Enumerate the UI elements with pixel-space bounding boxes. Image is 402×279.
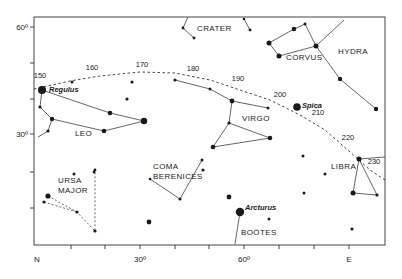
- star-icon: [304, 23, 307, 26]
- star-name-label: Arcturus: [244, 203, 276, 212]
- star-icon: [314, 44, 319, 49]
- constellation-dashed-line: [44, 202, 77, 212]
- y-axis-label: 30º: [16, 130, 28, 139]
- star-icon: [268, 218, 271, 221]
- constellation-line: [213, 101, 270, 147]
- ecliptic-longitude-label: 200: [274, 90, 287, 99]
- star-icon: [94, 169, 97, 172]
- star-icon: [236, 208, 244, 216]
- constellation-label: CORVUS: [286, 53, 322, 62]
- x-axis-label: N: [34, 255, 40, 264]
- star-icon: [45, 193, 50, 198]
- star-icon: [38, 86, 46, 94]
- constellation-label: HYDRA: [338, 47, 368, 56]
- ecliptic-longitude-label: 220: [342, 133, 355, 142]
- star-icon: [243, 18, 246, 21]
- constellation-line: [38, 119, 52, 137]
- star-name-label: Regulus: [49, 85, 79, 94]
- star-icon: [350, 227, 353, 230]
- ecliptic-longitude-label: 180: [187, 64, 200, 73]
- constellation-label: BERENICES: [153, 172, 203, 181]
- star-icon: [201, 159, 204, 162]
- star-icon: [93, 229, 96, 232]
- constellation-label: VIRGO: [242, 114, 270, 123]
- constellation-label: LEO: [75, 129, 92, 138]
- star-icon: [102, 129, 107, 134]
- star-icon: [193, 37, 196, 40]
- star-icon: [42, 200, 45, 203]
- constellation-line: [235, 212, 240, 244]
- constellation-line: [40, 90, 144, 131]
- constellation-label: MAJOR: [58, 186, 88, 195]
- ecliptic-longitude-label: 150: [34, 71, 47, 80]
- star-icon: [227, 121, 230, 124]
- star-icon: [209, 88, 212, 91]
- y-axis-label: 60º: [16, 23, 28, 32]
- star-icon: [357, 157, 362, 162]
- star-icon: [249, 29, 252, 32]
- star-icon: [351, 191, 356, 196]
- star-icon: [178, 197, 181, 200]
- star-icon: [230, 99, 235, 104]
- constellation-label: LIBRA: [331, 162, 356, 171]
- x-axis-label: 30º: [134, 255, 146, 264]
- star-icon: [303, 192, 306, 195]
- star-icon: [147, 220, 152, 225]
- star-icon: [50, 117, 54, 121]
- star-icon: [46, 129, 49, 132]
- star-icon: [130, 80, 133, 83]
- star-icon: [268, 136, 273, 141]
- star-icon: [211, 145, 216, 150]
- ecliptic-longitude-label: 160: [86, 63, 99, 72]
- star-icon: [374, 107, 378, 111]
- star-icon: [182, 27, 185, 30]
- star-name-labels: RegulusSpicaArcturus: [49, 85, 322, 212]
- constellation-line: [244, 19, 250, 30]
- star-icon: [108, 111, 113, 116]
- star-icon: [375, 193, 378, 196]
- star-icon: [227, 195, 232, 200]
- star-icon: [38, 105, 41, 108]
- star-icon: [292, 27, 297, 32]
- constellation-label: COMA: [153, 162, 179, 171]
- star-icon: [302, 155, 305, 158]
- star-icon: [324, 173, 327, 176]
- star-icon: [277, 54, 282, 59]
- x-axis-label: 60º: [238, 255, 250, 264]
- star-icon: [267, 41, 272, 46]
- ecliptic-longitude-label: 190: [232, 74, 245, 83]
- star-chart: 60º30ºN30º60ºE 1501601701801902002102202…: [0, 0, 402, 279]
- star-icon: [75, 210, 78, 213]
- ecliptic-longitude-label: 230: [368, 157, 381, 166]
- star-icon: [293, 103, 301, 111]
- star-icon: [125, 97, 128, 100]
- ecliptic-longitude-label: 170: [136, 60, 149, 69]
- ecliptic-markers: 150160170180190200210220230: [34, 60, 381, 166]
- star-name-label: Spica: [302, 101, 322, 110]
- star-icon: [149, 178, 152, 181]
- star-icon: [173, 78, 176, 81]
- star-icon: [141, 118, 147, 124]
- constellation-line: [316, 20, 344, 46]
- constellation-label: BOÖTES: [241, 228, 277, 237]
- constellation-label: CRATER: [197, 24, 232, 33]
- star-icon: [338, 77, 342, 81]
- constellation-label: URSA: [58, 176, 82, 185]
- star-icon: [267, 107, 270, 110]
- stars: [38, 18, 379, 233]
- constellation-line: [183, 17, 194, 38]
- x-axis-label: E: [346, 255, 351, 264]
- star-icon: [71, 81, 74, 84]
